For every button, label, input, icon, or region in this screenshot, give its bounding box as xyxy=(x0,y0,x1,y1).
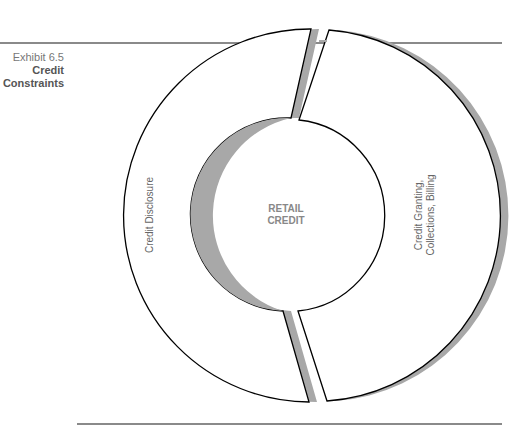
segment-label-credit-granting: Credit Granting, Collections, Billing xyxy=(413,174,436,255)
center-label-line1: RETAIL xyxy=(268,203,303,214)
svg-text:Credit Granting,: Credit Granting, xyxy=(413,180,424,251)
segment-credit-granting xyxy=(298,30,500,401)
center-label-line2: CREDIT xyxy=(267,215,304,226)
svg-text:Collections, Billing: Collections, Billing xyxy=(425,174,436,255)
credit-constraints-diagram: Credit Disclosure Credit Granting, Colle… xyxy=(0,0,532,429)
segment-label-credit-disclosure: Credit Disclosure xyxy=(144,176,155,253)
